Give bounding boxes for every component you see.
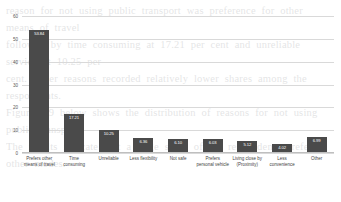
x-axis-category-label: Less convenience	[265, 156, 300, 168]
bar-value-label: 17.21	[69, 115, 79, 120]
y-axis-tick-label: 40	[13, 59, 18, 64]
x-axis-category-label: Not safe	[161, 156, 196, 168]
bar[interactable]: 6.03	[203, 139, 223, 153]
bar[interactable]: 6.10	[168, 139, 188, 153]
bar-value-label: 6.99	[313, 138, 321, 143]
bar-column: 17.21	[57, 16, 92, 153]
bar-column: 53.84	[22, 16, 57, 153]
y-axis-tick-label: 0	[15, 151, 18, 156]
bar-column: 6.36	[126, 16, 161, 153]
y-axis-tick-label: 50	[13, 36, 18, 41]
y-axis-tick-label: 60	[13, 14, 18, 19]
bar-value-label: 5.12	[243, 142, 251, 147]
bar-value-label: 53.84	[34, 31, 44, 36]
bar-value-label: 4.02	[278, 145, 286, 150]
bar-chart: 6050403020100 53.8417.2110.256.366.106.0…	[0, 0, 341, 202]
bar-value-label: 6.03	[209, 140, 217, 145]
x-axis-category-label: Time consuming	[57, 156, 92, 168]
bar-column: 6.03	[195, 16, 230, 153]
bar[interactable]: 53.84	[29, 30, 49, 153]
x-axis-category-label: Unreliable	[91, 156, 126, 168]
bar-column: 10.25	[91, 16, 126, 153]
y-axis-tick-label: 30	[13, 82, 18, 87]
bar-value-label: 6.36	[139, 139, 147, 144]
y-axis-tick-label: 10	[13, 128, 18, 133]
bar-series: 53.8417.2110.256.366.106.035.124.026.99	[22, 16, 334, 153]
bar-value-label: 6.10	[174, 140, 182, 145]
bar-column: 6.10	[161, 16, 196, 153]
bar[interactable]: 6.36	[133, 138, 153, 153]
x-axis-category-label: Prefers other means of travel	[22, 156, 57, 168]
bar-column: 6.99	[299, 16, 334, 153]
x-axis-category-label: Other	[299, 156, 334, 168]
x-axis-category-label: Less flexibility	[126, 156, 161, 168]
y-axis-tick-label: 20	[13, 105, 18, 110]
x-axis-category-label: Prefers personal vehicle	[195, 156, 230, 168]
bar-value-label: 10.25	[104, 131, 114, 136]
axis-baseline	[22, 152, 334, 153]
plot-area: 6050403020100 53.8417.2110.256.366.106.0…	[22, 16, 334, 153]
bar[interactable]: 17.21	[64, 114, 84, 153]
bar[interactable]: 6.99	[307, 137, 327, 153]
bar-column: 4.02	[265, 16, 300, 153]
bar[interactable]: 10.25	[99, 130, 119, 153]
x-axis-labels: Prefers other means of travelTime consum…	[22, 156, 334, 168]
bar-column: 5.12	[230, 16, 265, 153]
x-axis-category-label: Living close by (Proximity)	[230, 156, 265, 168]
gridline: 0	[22, 153, 334, 154]
